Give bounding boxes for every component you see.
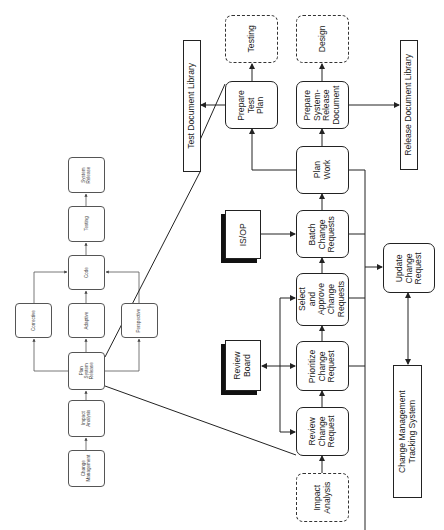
batch-change-requests-box: Batch Change Requests [296, 210, 349, 258]
overview-plan-system-release-box: Plan System Release [68, 352, 105, 390]
overview-adaptive-box: Adaptive [68, 303, 105, 338]
review-change-request-box: Review Change Request [296, 407, 349, 456]
update-change-request-label: Update Change Request [395, 252, 424, 284]
select-and-approve-label: Select and Approve Change Requests [298, 281, 346, 317]
testing-external-box: Testing [225, 15, 278, 63]
impact-analysis-external-box: Impact Analysis [296, 473, 349, 522]
isop-box: IS/OP [225, 210, 261, 259]
overview-corrective-box: Corrective [15, 303, 52, 338]
overview-adaptive-label: Adaptive [84, 312, 89, 330]
test-document-library-label: Test Document Library [187, 63, 197, 149]
release-document-library-label: Release Document Library [404, 54, 414, 156]
update-change-request-box: Update Change Request [383, 243, 435, 293]
prepare-test-plan-box: Prepare Test Plan [225, 81, 278, 129]
impact-analysis-external-label: Impact Analysis [313, 482, 332, 514]
review-change-request-label: Review Change Request [308, 415, 337, 447]
overview-corrective-label: Corrective [31, 310, 36, 331]
select-and-approve-box: Select and Approve Change Requests [296, 273, 349, 326]
testing-external-label: Testing [247, 25, 257, 52]
plan-work-box: Plan Work [296, 146, 349, 194]
review-board-label: Review Board [233, 351, 252, 379]
prepare-system-release-document-box: Prepare System- Release Document [296, 81, 349, 129]
overview-perspective-box: Perspective [121, 303, 158, 338]
overview-plan-system-release-label: Plan System Release [79, 363, 94, 380]
plan-work-label: Plan Work [313, 160, 332, 180]
prioritize-change-request-label: Prioritize Change Request [308, 349, 337, 382]
connector-lines [0, 0, 444, 530]
prepare-system-release-document-label: Prepare System- Release Document [303, 85, 342, 124]
overview-impact-analysis-box: Impact Analysis [68, 400, 105, 437]
design-external-label: Design [318, 26, 328, 53]
test-document-library-box: Test Document Library [183, 40, 201, 172]
prepare-test-plan-label: Prepare Test Plan [237, 90, 266, 121]
overview-testing-label: Testing [84, 217, 89, 232]
isop-label: IS/OP [238, 223, 248, 246]
overview-system-release-label: System Release [81, 167, 91, 184]
design-external-box: Design [296, 15, 349, 63]
batch-change-requests-label: Batch Change Requests [308, 216, 337, 252]
release-document-library-box: Release Document Library [400, 40, 418, 170]
overview-change-management-label: Change Management [81, 455, 91, 482]
review-board-box: Review Board [225, 340, 261, 391]
overview-code-label: Code [84, 267, 89, 278]
overview-impact-analysis-label: Impact Analysis [81, 410, 91, 427]
change-management-tracking-system-label: Change Management Tracking System [398, 390, 417, 473]
overview-change-management-box: Change Management [68, 450, 105, 487]
prioritize-change-request-box: Prioritize Change Request [296, 341, 349, 391]
overview-system-release-box: System Release [68, 157, 105, 193]
overview-testing-box: Testing [68, 206, 105, 242]
overview-perspective-label: Perspective [137, 308, 142, 332]
overview-code-box: Code [68, 255, 105, 290]
change-management-tracking-system-box: Change Management Tracking System [393, 365, 422, 498]
